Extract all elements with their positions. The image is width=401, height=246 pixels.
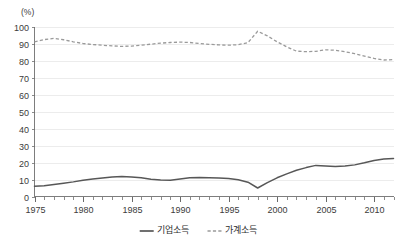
series-line-corporate-income [35, 159, 394, 188]
y-axis-tick-label: 90 [19, 40, 29, 50]
x-axis-tick-label: 2000 [267, 205, 287, 215]
gridline-group [35, 28, 394, 181]
x-axis-tick-label: 1985 [122, 205, 142, 215]
series-line-household-income [35, 31, 394, 60]
y-axis-tick-label: 40 [19, 125, 29, 135]
chart-legend: 기업소득가계소득 [140, 224, 257, 235]
y-axis-tick-label: 100 [14, 23, 29, 33]
y-axis-tick-label: 20 [19, 159, 29, 169]
x-axis-tick-label: 2010 [364, 205, 384, 215]
x-axis-tick-label: 1995 [219, 205, 239, 215]
y-axis-tick-label: 60 [19, 91, 29, 101]
x-axis-tick-label: 2005 [316, 205, 336, 215]
line-chart: (%) 0102030405060708090100 1975198019851… [0, 0, 401, 246]
y-axis-tick-label: 10 [19, 176, 29, 186]
legend-label: 기업소득 [157, 225, 189, 235]
y-axis-tick-label: 70 [19, 74, 29, 84]
x-axis-tick-label: 1980 [73, 205, 93, 215]
x-axis-major-tick-group [36, 197, 375, 203]
legend-label: 가계소득 [225, 224, 257, 235]
x-axis-label-group: 19751980198519901995200020052010 [25, 205, 384, 215]
y-axis-tick-label: 80 [19, 57, 29, 67]
y-unit-label: (%) [21, 7, 34, 17]
data-series-group [35, 31, 394, 188]
x-axis-tick-label: 1990 [170, 205, 190, 215]
chart-canvas: (%) 0102030405060708090100 1975198019851… [0, 0, 401, 246]
x-axis-tick-label: 1975 [25, 205, 45, 215]
y-axis-tick-label: 0 [24, 193, 29, 203]
unit-label-group: (%) [21, 7, 34, 17]
y-axis-tick-label: 30 [19, 142, 29, 152]
y-axis-tick-group: 0102030405060708090100 [14, 23, 35, 203]
y-axis-tick-label: 50 [19, 108, 29, 118]
